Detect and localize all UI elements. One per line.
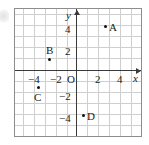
x-tick-neg2: −2 bbox=[50, 74, 62, 85]
data-point-b bbox=[48, 58, 51, 61]
grid-line-vertical bbox=[45, 9, 46, 136]
coordinate-plane-figure: x y −4 −2 O 2 4 4 2 −2 −4 A B C D bbox=[0, 0, 149, 145]
y-axis-arrow bbox=[74, 10, 80, 15]
data-point-c bbox=[37, 86, 40, 89]
x-tick-2: 2 bbox=[95, 74, 101, 85]
y-tick-neg2: −2 bbox=[59, 91, 71, 102]
data-point-label-c: C bbox=[34, 92, 41, 103]
data-point-label-b: B bbox=[46, 45, 53, 56]
y-axis-label: y bbox=[66, 10, 71, 21]
y-axis-line bbox=[76, 9, 77, 136]
plot-frame: x y −4 −2 O 2 4 4 2 −2 −4 A B C D bbox=[14, 8, 142, 137]
y-tick-4: 4 bbox=[65, 24, 71, 35]
grid-line-horizontal bbox=[15, 25, 141, 26]
x-tick-4: 4 bbox=[117, 74, 123, 85]
grid-line-horizontal bbox=[15, 114, 141, 115]
x-axis-line bbox=[15, 70, 141, 71]
data-point-label-d: D bbox=[87, 111, 95, 122]
grid-line-horizontal bbox=[15, 103, 141, 104]
x-axis-label: x bbox=[133, 73, 138, 84]
grid-line-vertical bbox=[23, 9, 24, 136]
x-tick-neg4: −4 bbox=[28, 74, 40, 85]
data-point-d bbox=[82, 114, 85, 117]
grid-line-vertical bbox=[131, 9, 132, 136]
grid-line-horizontal bbox=[15, 125, 141, 126]
y-tick-neg4: −4 bbox=[59, 113, 71, 124]
origin-label: O bbox=[67, 74, 75, 85]
grid-line-horizontal bbox=[15, 47, 141, 48]
data-point-label-a: A bbox=[109, 22, 117, 33]
y-tick-2: 2 bbox=[65, 46, 71, 57]
grid-line-horizontal bbox=[15, 58, 141, 59]
data-point-a bbox=[104, 25, 107, 28]
grid-line-horizontal bbox=[15, 36, 141, 37]
scan-artifact bbox=[0, 8, 9, 24]
